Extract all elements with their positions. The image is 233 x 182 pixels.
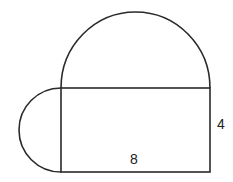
height-label: 4	[217, 116, 225, 132]
composite-figure: 8 4	[0, 0, 233, 182]
left-semicircle	[19, 88, 61, 172]
width-label: 8	[130, 151, 138, 167]
top-semicircle	[61, 12, 210, 88]
